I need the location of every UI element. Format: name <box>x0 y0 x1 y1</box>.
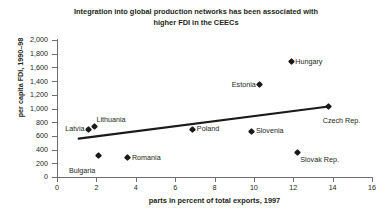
data-point-label: Poland <box>197 125 219 133</box>
plot-area: 02004006008001,0001,2001,4001,6001,8002,… <box>0 0 386 215</box>
data-point-label: Lithuania <box>96 116 125 124</box>
data-point-label: Slovenia <box>256 127 284 135</box>
data-point-label: Estonia <box>232 81 256 89</box>
chart-container: Integration into global production netwo… <box>0 0 386 215</box>
data-point-label: Romania <box>132 154 161 162</box>
data-point-label: Czech Rep. <box>323 117 361 125</box>
data-point-label: Bulgaria <box>69 167 95 175</box>
data-point-label: Hungary <box>295 58 322 66</box>
data-point-label: Slovak Rep. <box>300 156 339 164</box>
data-point-label: Latvia <box>65 125 84 133</box>
